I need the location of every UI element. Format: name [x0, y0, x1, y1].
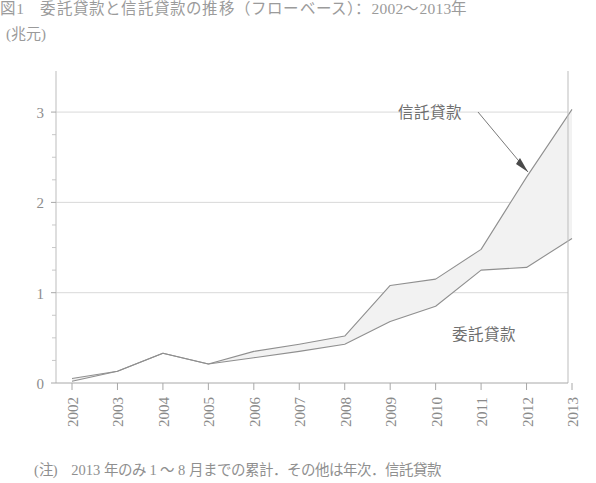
svg-text:2004: 2004 [156, 397, 172, 428]
svg-text:2010: 2010 [429, 397, 445, 427]
svg-text:2012: 2012 [520, 397, 536, 427]
svg-text:2007: 2007 [292, 397, 308, 428]
svg-text:2008: 2008 [338, 397, 354, 427]
svg-text:2003: 2003 [110, 397, 126, 427]
svg-text:2009: 2009 [383, 397, 399, 427]
upper-series-label: 信託貸款 [398, 104, 462, 121]
svg-text:2006: 2006 [247, 397, 263, 428]
footnote-marker: (注) [34, 462, 58, 478]
footnote-text: 2013 年のみ 1 ～ 8 月までの累計．その他は年次．信託貸款 [71, 462, 441, 478]
svg-text:2005: 2005 [201, 397, 217, 427]
footnote: (注) 2013 年のみ 1 ～ 8 月までの累計．その他は年次．信託貸款 [0, 458, 596, 479]
svg-text:2002: 2002 [65, 397, 81, 427]
svg-text:3: 3 [37, 105, 45, 121]
x-axis-tick-labels: 2002200320042005200620072008200920102011… [65, 397, 581, 428]
lower-series-label: 委託貸款 [452, 326, 516, 343]
chart-area: 0123 20022003200420052006200720082009201… [0, 40, 596, 452]
svg-text:2011: 2011 [474, 397, 490, 426]
svg-text:2: 2 [37, 195, 45, 211]
y-axis-tick-labels: 0123 [37, 105, 45, 392]
page-title: 図1 委託貸款と信託貸款の推移（フローベース）：2002～2013年 [0, 0, 596, 16]
line-area-chart: 0123 20022003200420052006200720082009201… [0, 40, 596, 452]
svg-text:2013: 2013 [565, 397, 581, 427]
svg-text:1: 1 [37, 286, 45, 302]
svg-text:0: 0 [37, 376, 45, 392]
